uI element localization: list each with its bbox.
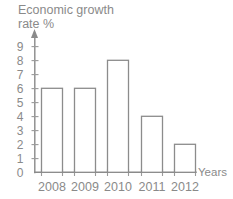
bar-2008	[42, 88, 63, 172]
y-tick-label: 9	[17, 40, 24, 54]
x-axis-label: Years	[198, 166, 227, 178]
x-tick-label-2012: 2012	[171, 180, 199, 194]
y-tick-label: 4	[17, 110, 24, 124]
bar-2012	[175, 144, 196, 172]
bar-chart: Economic growth rate % 9 8 7 6 5 4 3	[0, 0, 233, 199]
x-axis-category-labels: 2008 2009 2010 2011 2012	[38, 180, 199, 194]
y-tick-label: 0	[17, 166, 24, 180]
y-tick-label: 6	[17, 82, 24, 96]
bar-2011	[142, 116, 163, 172]
y-tick-label: 8	[17, 54, 24, 68]
x-tick-label-2009: 2009	[71, 180, 99, 194]
x-tick-label-2011: 2011	[139, 180, 166, 194]
y-axis-tick-labels: 9 8 7 6 5 4 3 2 1 0	[17, 40, 24, 180]
y-tick-label: 5	[17, 96, 24, 110]
bar-2010	[108, 60, 129, 172]
y-tick-label: 3	[17, 124, 24, 138]
x-tick-label-2010: 2010	[104, 180, 132, 194]
y-tick-label: 2	[17, 138, 24, 152]
bar-2009	[75, 88, 96, 172]
chart-title-line-1: Economic growth	[18, 3, 114, 17]
y-tick-label: 1	[17, 152, 24, 166]
x-tick-label-2008: 2008	[38, 180, 66, 194]
chart-canvas: Economic growth rate % 9 8 7 6 5 4 3	[0, 0, 233, 199]
bar-series	[42, 60, 196, 172]
y-tick-label: 7	[17, 68, 24, 82]
chart-title-line-2: rate %	[18, 17, 54, 31]
